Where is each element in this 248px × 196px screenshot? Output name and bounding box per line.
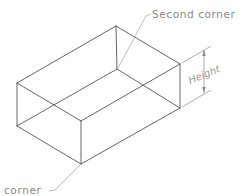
extension-line-top <box>182 46 211 63</box>
edge-bottom-front-left <box>17 126 81 164</box>
box-edges <box>17 26 180 164</box>
first-corner-leader <box>49 165 80 191</box>
edge-bottom-back-right <box>117 69 180 108</box>
height-label: Height <box>187 63 223 86</box>
second-corner-label: Second corner <box>152 8 236 20</box>
second-corner-leader <box>118 14 151 68</box>
edge-top-back-left <box>17 26 116 83</box>
edge-bottom-front-right <box>81 108 180 164</box>
first-corner-label: corner <box>4 184 41 196</box>
first-corner-callout: corner <box>4 165 80 196</box>
edge-bottom-back-left <box>17 69 117 126</box>
edge-top-back-right <box>116 26 180 64</box>
edge-top-front-left <box>17 83 81 121</box>
box-diagram: Second corner corner Height <box>0 0 248 196</box>
extension-line-bottom <box>182 90 211 107</box>
arrow-bottom-icon <box>202 87 205 93</box>
height-dimension: Height <box>182 46 222 107</box>
edge-top-front-right <box>81 64 180 121</box>
edge-vertical-back <box>116 26 117 69</box>
